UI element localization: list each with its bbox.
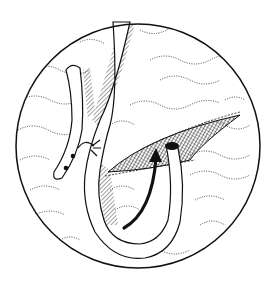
tube-opening [165,142,179,150]
circular-frame [16,24,260,268]
surgical-illustration [0,0,276,286]
